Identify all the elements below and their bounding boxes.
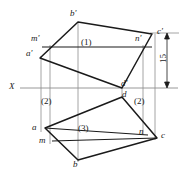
line-m-to-c [52,138,157,141]
vertex-label-c: c [161,131,165,140]
face-label-2-left: (2) [41,97,52,106]
vertex-label-c-prime: c' [157,27,163,36]
vertex-label-d-prime: d' [121,79,127,88]
vertex-label-m-prime: m' [31,34,39,43]
x-axis-label: X [9,82,15,91]
dimension-value-label: 15 [159,51,168,67]
vertex-label-a-prime: a' [26,49,32,58]
front-view-outline [40,22,152,88]
face-label-1: (1) [81,38,92,47]
vertex-label-d: d [122,90,127,99]
dimension-arrow-bottom [165,82,170,88]
vertex-label-m: m [39,136,46,145]
technical-drawing-canvas: b' m' n' c' a' d' d a m n c b (1) (2) (2… [0,0,186,177]
vertex-label-n-prime: n' [135,34,141,43]
vertex-label-b-prime: b' [70,9,76,18]
line-m-n [45,128,148,135]
vertex-label-n: n [139,127,144,136]
face-label-2-right: (2) [134,97,145,106]
vertex-label-a: a [32,123,37,132]
vertex-label-b: b [73,160,78,169]
face-label-3: (3) [78,124,89,133]
front-view-face-polygon [40,22,152,88]
dimension-arrow-top [165,33,170,39]
